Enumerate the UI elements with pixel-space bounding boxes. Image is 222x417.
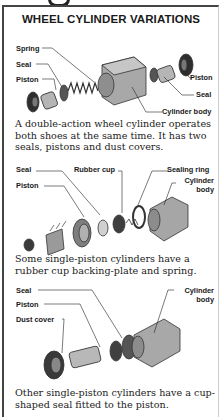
wheel-cylinder-panel: WHEEL CYLINDER VARIATIONS	[2, 5, 219, 417]
label-cylinder-body-3a: Cylinder	[180, 286, 214, 295]
label-seal: Seal	[16, 165, 31, 174]
label-cylinder-body-2b: body	[182, 185, 214, 194]
label-piston-right: Piston	[190, 73, 213, 82]
label-seal-right: Seal	[196, 90, 211, 99]
caption-cup-seal: Other single-piston cylinders have a cup…	[15, 387, 215, 410]
label-seal-3: Seal	[16, 286, 31, 295]
caption-rubber-cup: Some single-piston cylinders have a rubb…	[15, 253, 215, 276]
panel-title: WHEEL CYLINDER VARIATIONS	[4, 13, 218, 25]
label-piston-3: Piston	[16, 300, 39, 309]
label-spring: Spring	[16, 44, 39, 53]
label-cylinder-body: Cylinder body	[162, 107, 211, 116]
label-piston: Piston	[16, 181, 39, 190]
caption-double-action: A double-action wheel cylinder operates …	[15, 118, 215, 153]
label-seal-left: Seal	[16, 60, 31, 69]
label-sealing-ring: Sealing ring	[167, 165, 209, 174]
label-cylinder-body-3b: body	[180, 295, 214, 304]
label-cylinder-body-2a: Cylinder	[182, 176, 214, 185]
label-piston-left: Piston	[16, 75, 39, 84]
label-rubber-cup: Rubber cup	[74, 165, 115, 174]
label-dust-cover: Dust cover	[16, 315, 54, 324]
